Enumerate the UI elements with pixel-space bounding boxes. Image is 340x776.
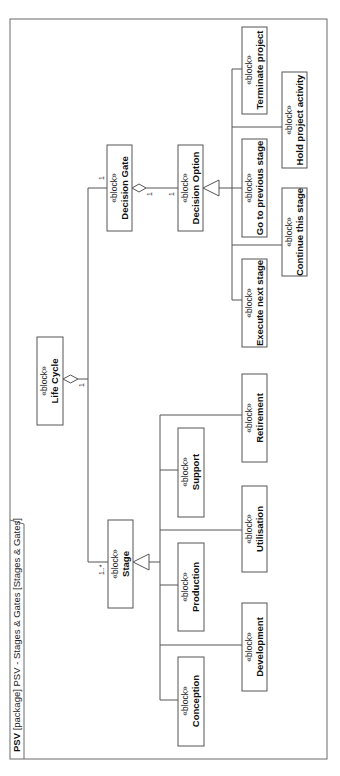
stereotype-label: «block» [39, 366, 49, 396]
stereotype-label: «block» [284, 105, 294, 135]
stereotype-label: «block» [244, 288, 254, 318]
generalization-triangle-stage [133, 554, 149, 570]
block-continue-this-stage[interactable]: «block» Continue this stage [282, 188, 307, 276]
frame-title: PSV [package] PSV - Stages & Gates [Stag… [11, 518, 22, 752]
block-stage[interactable]: «block» Stage [108, 520, 133, 608]
block-name: Execute next stage [254, 260, 265, 346]
aggregation-diamond-lifecycle [63, 375, 78, 383]
block-retirement[interactable]: «block» Retirement [242, 374, 267, 462]
generalization-triangle-option [203, 180, 219, 196]
stereotype-label: «block» [244, 514, 254, 544]
block-name: Utilisation [254, 506, 265, 552]
block-utilisation[interactable]: «block» Utilisation [242, 486, 267, 572]
stereotype-label: «block» [244, 632, 254, 662]
block-life-cycle[interactable]: «block» Life Cycle [37, 337, 63, 425]
block-conception[interactable]: «block» Conception [178, 657, 204, 746]
block-hold-project-activity[interactable]: «block» Hold project activity [282, 72, 307, 168]
multiplicity-label: 1 [98, 176, 105, 180]
block-name: Conception [190, 675, 201, 727]
stereotype-label: «block» [244, 403, 254, 433]
block-name: Decision Option [190, 151, 201, 224]
block-decision-gate[interactable]: «block» Decision Gate [107, 145, 132, 231]
stereotype-label: «block» [284, 217, 294, 247]
block-name: Continue this stage [294, 188, 305, 276]
block-name: Terminate project [254, 30, 265, 110]
block-name: Go to previous stage [254, 141, 265, 236]
stereotype-label: «block» [180, 572, 190, 602]
stereotype-label: «block» [110, 549, 120, 579]
block-go-to-previous-stage[interactable]: «block» Go to previous stage [242, 139, 267, 237]
stereotype-label: «block» [180, 686, 190, 716]
block-name: Decision Gate [119, 156, 130, 219]
block-production[interactable]: «block» Production [178, 543, 204, 631]
multiplicity-label: 1 [168, 192, 175, 196]
block-execute-next-stage[interactable]: «block» Execute next stage [242, 259, 267, 347]
block-name: Stage [120, 551, 131, 577]
stereotype-label: «block» [180, 173, 190, 203]
block-support[interactable]: «block» Support [178, 428, 204, 517]
multiplicity-label: 1..* [98, 564, 105, 575]
stereotype-label: «block» [180, 457, 190, 487]
block-name: Support [190, 453, 201, 490]
stereotype-label: «block» [244, 173, 254, 203]
block-name: Life Cycle [49, 359, 60, 404]
block-name: Retirement [254, 392, 265, 442]
block-name: Hold project activity [294, 74, 305, 166]
multiplicity-label: 1 [146, 192, 153, 196]
block-name: Production [190, 562, 201, 612]
block-decision-option[interactable]: «block» Decision Option [178, 145, 203, 231]
block-terminate-project[interactable]: «block» Terminate project [242, 27, 267, 114]
block-development[interactable]: «block» Development [242, 603, 267, 691]
stereotype-label: «block» [244, 55, 254, 85]
block-name: Development [254, 616, 265, 676]
diagram-canvas: PSV [package] PSV - Stages & Gates [Stag… [0, 0, 340, 776]
multiplicity-label: 1 [78, 383, 85, 387]
aggregation-diamond-gate [132, 184, 146, 192]
stereotype-label: «block» [109, 173, 119, 203]
